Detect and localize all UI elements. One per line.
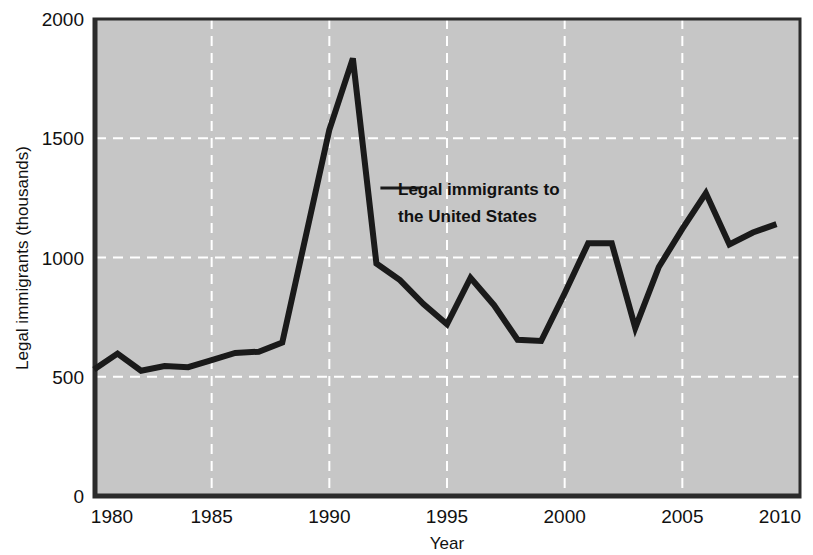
callout-text-line1: Legal immigrants to — [398, 180, 560, 199]
x-tick-1995: 1995 — [426, 506, 468, 527]
x-tick-2005: 2005 — [661, 506, 703, 527]
x-axis-title: Year — [430, 534, 465, 553]
y-tick-1000: 1000 — [42, 248, 84, 269]
x-tick-1990: 1990 — [308, 506, 350, 527]
y-tick-0: 0 — [73, 486, 84, 507]
chart-figure: 0500100015002000 19801985199019952000200… — [0, 0, 813, 555]
x-tick-1980: 1980 — [91, 506, 133, 527]
y-axis-title: Legal immigrants (thousands) — [13, 146, 32, 370]
y-tick-500: 500 — [52, 367, 84, 388]
callout-text-line2: the United States — [398, 207, 537, 226]
x-tick-1985: 1985 — [191, 506, 233, 527]
y-tick-1500: 1500 — [42, 128, 84, 149]
x-axis-tick-labels: 1980198519901995200020052010 — [91, 506, 801, 527]
y-tick-2000: 2000 — [42, 9, 84, 30]
x-tick-2010: 2010 — [759, 506, 801, 527]
immigration-line-chart: 0500100015002000 19801985199019952000200… — [0, 0, 813, 555]
x-tick-2000: 2000 — [544, 506, 586, 527]
